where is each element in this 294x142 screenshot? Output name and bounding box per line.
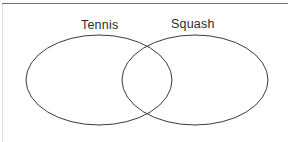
venn-diagram-figure: Tennis Squash — [0, 0, 294, 142]
venn-label-tennis: Tennis — [81, 18, 118, 32]
venn-label-squash: Squash — [171, 17, 215, 31]
venn-stage: Tennis Squash — [0, 0, 294, 142]
venn-circles-graphic — [0, 0, 294, 142]
venn-ellipse-tennis — [26, 35, 172, 125]
venn-ellipse-squash — [122, 35, 268, 125]
